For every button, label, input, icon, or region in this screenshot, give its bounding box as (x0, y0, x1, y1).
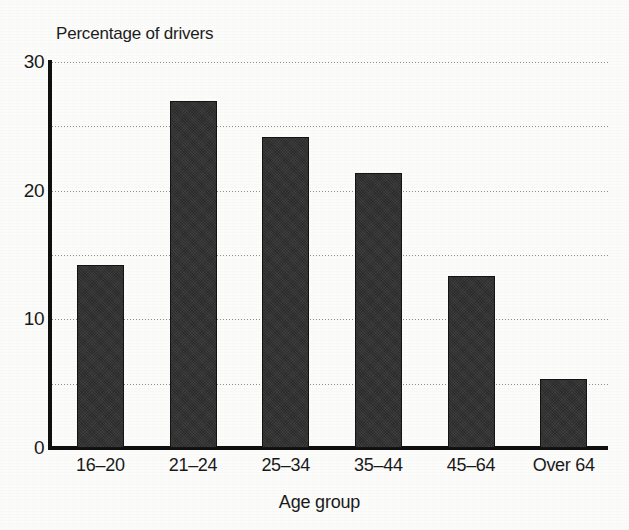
gridline (52, 319, 608, 320)
bar (355, 173, 402, 448)
y-axis-tick-label: 10 (24, 308, 44, 330)
bar (448, 276, 495, 448)
gridline (52, 191, 608, 192)
bar (170, 101, 217, 448)
chart-title: Percentage of drivers (56, 24, 213, 44)
x-axis-title: Age group (0, 492, 629, 513)
bar (77, 265, 124, 448)
gridline (52, 126, 608, 127)
gridline (52, 62, 608, 63)
y-axis-tick-label: 30 (24, 51, 44, 73)
gridline (52, 384, 608, 385)
bar (262, 137, 309, 448)
y-axis-tick-label: 20 (24, 180, 44, 202)
plot-area (52, 62, 608, 448)
gridline (52, 255, 608, 256)
x-axis-tick-label: Over 64 (504, 455, 624, 476)
chart-page: Percentage of drivers 0102030 16–2021–24… (0, 0, 629, 530)
y-axis-tick-labels: 0102030 (0, 0, 44, 530)
bar (540, 379, 587, 448)
x-axis-title-label: Age group (279, 492, 360, 513)
